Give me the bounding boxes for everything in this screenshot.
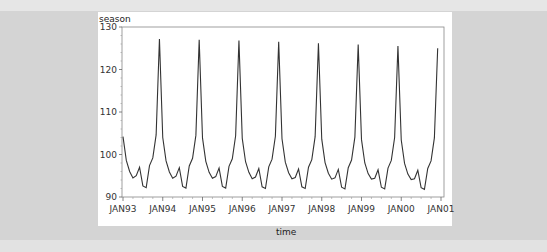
x-axis: JAN93JAN94JAN95JAN96JAN97JAN98JAN99JAN00… (109, 197, 455, 214)
y-tick-label: 110 (100, 107, 117, 117)
line-chart: 90100110120130 JAN93JAN94JAN95JAN96JAN97… (0, 0, 547, 252)
x-tick-label: JAN98 (307, 204, 335, 214)
season-series-line (123, 39, 438, 189)
x-tick-label: JAN96 (228, 204, 256, 214)
x-tick-label: JAN95 (188, 204, 216, 214)
x-axis-title: time (276, 227, 297, 237)
y-tick-label: 100 (100, 150, 117, 160)
x-tick-label: JAN00 (387, 204, 415, 214)
x-tick-label: JAN99 (347, 204, 375, 214)
y-axis-title: season (99, 14, 131, 24)
x-tick-label: JAN94 (148, 204, 176, 214)
y-tick-label: 120 (100, 65, 117, 75)
x-tick-label: JAN01 (427, 204, 455, 214)
x-tick-label: JAN97 (268, 204, 296, 214)
y-tick-label: 90 (106, 192, 118, 202)
x-tick-label: JAN93 (109, 204, 137, 214)
y-axis: 90100110120130 (100, 22, 122, 202)
